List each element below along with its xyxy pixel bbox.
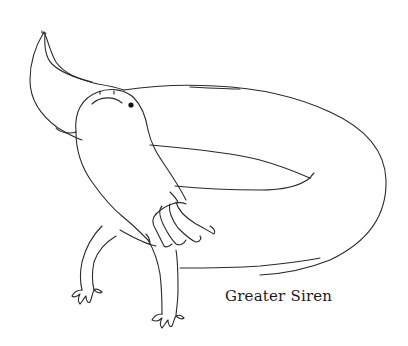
mouth [92, 98, 122, 104]
right-foreleg [146, 234, 184, 328]
left-foreleg [72, 226, 116, 304]
gills [153, 192, 215, 247]
illustration: Greater Siren [0, 0, 408, 346]
tail [30, 31, 124, 140]
greater-siren-drawing [0, 0, 408, 346]
body-inner-loop [150, 145, 314, 190]
caption: Greater Siren [225, 287, 332, 305]
body-lower-outline [180, 258, 320, 268]
eye-icon [128, 102, 133, 107]
body-upper-outline [124, 85, 386, 275]
head [76, 90, 186, 240]
